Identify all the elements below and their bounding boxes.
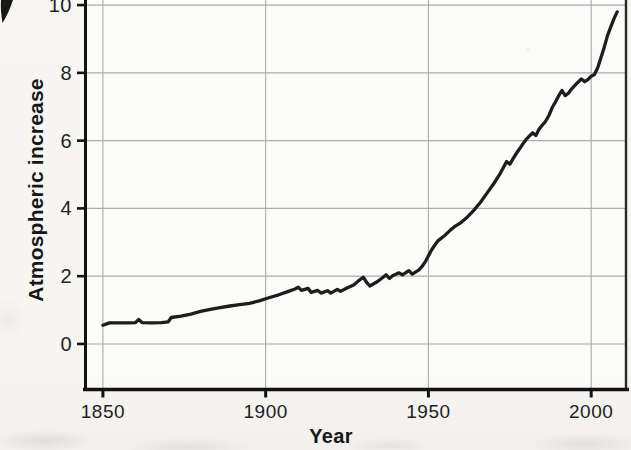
x-tick-label: 2000: [556, 401, 626, 422]
plot-area: [85, 0, 627, 389]
y-tick-label: 10: [32, 0, 72, 16]
x-tick-label: 1900: [231, 401, 301, 422]
x-tick-label: 1950: [393, 401, 463, 422]
line-chart: [0, 0, 631, 450]
x-axis-title: Year: [231, 425, 431, 448]
y-tick-label: 0: [32, 333, 72, 355]
y-tick-label: 6: [32, 130, 72, 152]
y-tick-label: 8: [32, 62, 72, 84]
x-tick-label: 1850: [68, 401, 138, 422]
y-tick-label: 2: [32, 265, 72, 287]
y-tick-label: 4: [32, 197, 72, 219]
corner-scan-artifact: [1, 0, 13, 23]
figure-atmospheric-increase-chart: Atmospheric increase Year 02468101850190…: [0, 0, 631, 450]
